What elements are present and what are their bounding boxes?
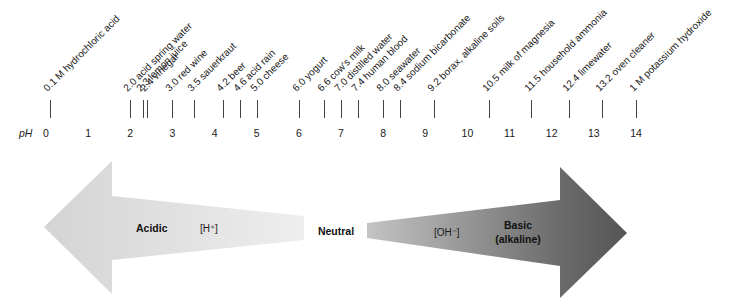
ph-axis-label: pH [18, 127, 33, 139]
basic-label: Basic [504, 219, 532, 231]
hydrogen-ion-label: [H⁺] [200, 223, 218, 234]
substance-labels: 0.1 M hydrochloric acid2.0 acid spring w… [41, 6, 714, 93]
ph-number-4: 4 [212, 127, 218, 139]
ph-number-11: 11 [504, 127, 515, 139]
ph-number-3: 3 [170, 127, 176, 139]
acidic-arrow [44, 161, 304, 294]
ph-number-7: 7 [338, 127, 344, 139]
alkaline-label: (alkaline) [495, 233, 541, 245]
ph-number-13: 13 [588, 127, 600, 139]
ph-number-14: 14 [630, 127, 642, 139]
substance-label: 13.2 oven cleaner [593, 29, 657, 93]
ph-number-5: 5 [254, 127, 260, 139]
ph-number-6: 6 [296, 127, 302, 139]
ph-scale-numbers: 01234567891011121314 [43, 127, 642, 139]
ph-number-8: 8 [380, 127, 386, 139]
substance-label: 0.1 M hydrochloric acid [41, 13, 121, 93]
ph-number-10: 10 [462, 127, 474, 139]
acidic-label: Acidic [136, 222, 168, 234]
hydroxide-ion-label: [OH⁻] [434, 227, 460, 238]
substance-ticks [51, 100, 637, 118]
neutral-label: Neutral [318, 225, 354, 237]
ph-number-9: 9 [422, 127, 428, 139]
ph-number-1: 1 [85, 127, 91, 139]
substance-label: 2.0 acid spring water [121, 20, 194, 93]
ph-number-12: 12 [546, 127, 558, 139]
ph-number-2: 2 [127, 127, 133, 139]
ph-scale-diagram: 0.1 M hydrochloric acid2.0 acid spring w… [0, 0, 733, 306]
ph-number-0: 0 [43, 127, 49, 139]
